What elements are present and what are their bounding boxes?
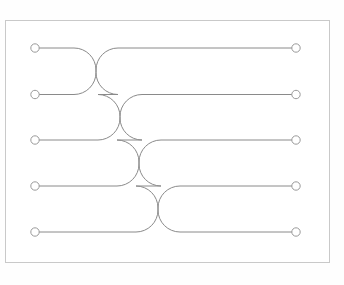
terminal-node-in-1[interactable] [31,44,39,52]
terminal-node-out-3[interactable] [292,136,300,144]
terminal-node-out-5[interactable] [292,228,300,236]
diagram-border [6,21,330,263]
terminal-node-out-2[interactable] [292,90,300,98]
terminal-node-out-1[interactable] [292,44,300,52]
terminal-node-in-3[interactable] [31,136,39,144]
diagram-canvas [0,0,344,285]
terminal-node-in-4[interactable] [31,182,39,190]
terminal-node-in-5[interactable] [31,228,39,236]
terminal-node-out-4[interactable] [292,182,300,190]
wire-crossing-diagram [0,0,344,285]
terminal-node-in-2[interactable] [31,90,39,98]
